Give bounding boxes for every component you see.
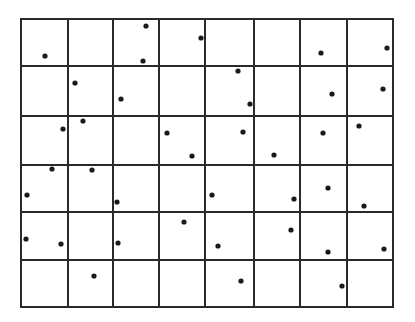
data-point xyxy=(118,96,123,101)
data-point xyxy=(325,249,330,254)
data-point xyxy=(91,273,96,278)
data-point xyxy=(189,153,194,158)
data-point xyxy=(209,192,214,197)
data-point xyxy=(384,45,389,50)
data-point xyxy=(235,68,240,73)
data-point xyxy=(140,58,145,63)
data-point xyxy=(198,35,203,40)
data-point xyxy=(240,129,245,134)
data-point xyxy=(115,240,120,245)
data-point xyxy=(320,130,325,135)
data-point xyxy=(329,91,334,96)
data-point xyxy=(247,101,252,106)
point-grid-diagram xyxy=(0,0,415,322)
data-point xyxy=(291,196,296,201)
data-point xyxy=(24,192,29,197)
grid-canvas xyxy=(0,0,415,322)
data-point xyxy=(143,23,148,28)
data-point xyxy=(361,203,366,208)
data-point xyxy=(60,126,65,131)
data-point xyxy=(238,278,243,283)
data-point xyxy=(325,185,330,190)
data-point xyxy=(356,123,361,128)
grid-lines xyxy=(21,19,393,307)
scatter-points xyxy=(23,23,389,288)
data-point xyxy=(339,283,344,288)
data-point xyxy=(80,118,85,123)
data-point xyxy=(23,236,28,241)
data-point xyxy=(215,243,220,248)
data-point xyxy=(89,167,94,172)
data-point xyxy=(42,53,47,58)
data-point xyxy=(271,152,276,157)
data-point xyxy=(380,86,385,91)
data-point xyxy=(49,166,54,171)
data-point xyxy=(164,130,169,135)
data-point xyxy=(288,227,293,232)
data-point xyxy=(58,241,63,246)
data-point xyxy=(381,246,386,251)
data-point xyxy=(318,50,323,55)
data-point xyxy=(181,219,186,224)
data-point xyxy=(72,80,77,85)
data-point xyxy=(114,199,119,204)
